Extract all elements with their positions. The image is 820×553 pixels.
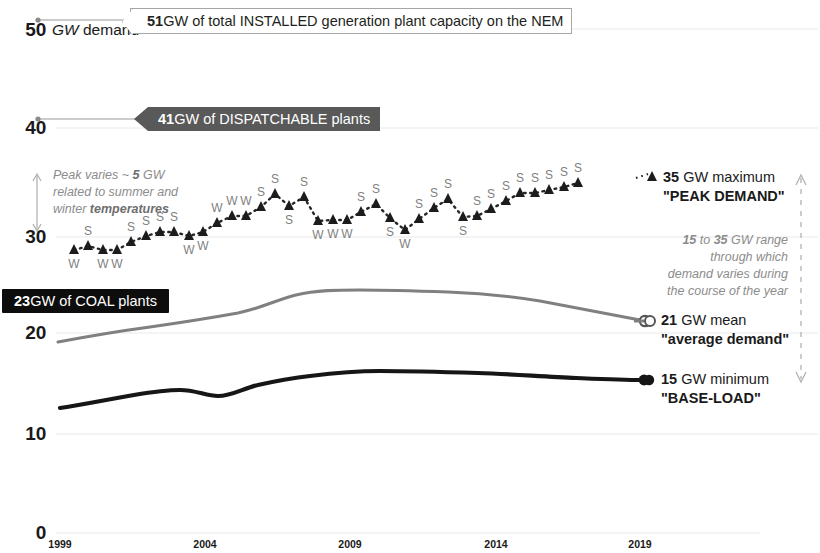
callout-coal-text: GW of COAL plants bbox=[30, 293, 157, 309]
legend-average-demand: 21 GW mean "average demand" bbox=[661, 311, 789, 349]
range-note-line2: through which bbox=[710, 250, 788, 264]
peak-note-line1-bold: 5 bbox=[133, 168, 140, 182]
season-marker-label: S bbox=[557, 165, 571, 179]
callout-coal-capacity: 23 GW of COAL plants bbox=[2, 289, 169, 313]
season-marker-label: S bbox=[528, 171, 542, 185]
legend-mean-quote: "average demand" bbox=[661, 331, 789, 347]
season-marker-label: W bbox=[326, 227, 340, 241]
range-note-line4: the course of the year bbox=[667, 284, 788, 298]
callout-installed-text: GW of total INSTALLED generation plant c… bbox=[163, 13, 563, 29]
callout-installed-capacity: 51 GW of total INSTALLED generation plan… bbox=[130, 8, 572, 34]
season-marker-label: W bbox=[182, 243, 196, 257]
y-tick-40: 40 bbox=[0, 117, 46, 139]
legend-base-load: 15 GW minimum "BASE-LOAD" bbox=[661, 370, 769, 408]
season-marker-label: S bbox=[542, 168, 556, 182]
legend-peak-quote: "PEAK DEMAND" bbox=[663, 188, 785, 204]
callout-dispatchable-value: 41 bbox=[158, 111, 174, 127]
callout-dispatchable-text: GW of DISPATCHABLE plants bbox=[174, 111, 370, 127]
legend-mean-value: 21 bbox=[661, 312, 677, 328]
callout-coal-value: 23 bbox=[14, 293, 30, 309]
series-min-line bbox=[60, 371, 642, 408]
season-marker-label: W bbox=[311, 228, 325, 242]
season-marker-label: S bbox=[297, 175, 311, 189]
season-marker-label: W bbox=[196, 239, 210, 253]
season-marker-label: S bbox=[268, 172, 282, 186]
peak-note-line3a: winter bbox=[53, 202, 90, 216]
range-note-line3: demand varies during bbox=[668, 267, 788, 281]
season-marker-label: W bbox=[67, 257, 81, 271]
season-marker-label: S bbox=[167, 210, 181, 224]
peak-variation-arrow bbox=[33, 174, 41, 231]
season-marker-label: S bbox=[369, 182, 383, 196]
season-marker-label: S bbox=[470, 194, 484, 208]
range-note-low: 15 bbox=[682, 233, 696, 247]
season-marker-label: S bbox=[441, 177, 455, 191]
season-marker-label: S bbox=[412, 197, 426, 211]
season-marker-label: S bbox=[513, 171, 527, 185]
annotation-peak-variation: Peak varies ~ 5 GW related to summer and… bbox=[53, 167, 223, 218]
reference-leader-41 bbox=[35, 116, 140, 121]
y-tick-20: 20 bbox=[0, 322, 46, 344]
legend-min-value: 15 bbox=[661, 371, 677, 387]
season-marker-label: S bbox=[153, 210, 167, 224]
season-marker-label: W bbox=[239, 194, 253, 208]
legend-mean-unit: GW mean bbox=[677, 312, 746, 328]
legend-min-quote: "BASE-LOAD" bbox=[661, 390, 761, 406]
season-marker-label: S bbox=[354, 190, 368, 204]
peak-note-line2: related to summer and bbox=[53, 185, 178, 199]
callout-installed-value: 51 bbox=[147, 13, 163, 29]
season-marker-label: S bbox=[81, 224, 95, 238]
callout-dispatchable-capacity: 41 GW of DISPATCHABLE plants bbox=[134, 107, 380, 131]
x-tick-1999: 1999 bbox=[30, 538, 90, 550]
legend-peak-value: 35 bbox=[663, 169, 679, 185]
season-marker-label: W bbox=[96, 257, 110, 271]
x-tick-2019: 2019 bbox=[610, 538, 670, 550]
legend-peak-unit: GW maximum bbox=[679, 169, 775, 185]
y-tick-30: 30 bbox=[0, 226, 46, 248]
x-tick-2014: 2014 bbox=[466, 538, 526, 550]
season-marker-label: S bbox=[456, 224, 470, 238]
range-note-high: 35 bbox=[714, 233, 728, 247]
legend-marker-peak bbox=[636, 171, 657, 181]
season-marker-label: W bbox=[210, 201, 224, 215]
season-marker-label: S bbox=[484, 187, 498, 201]
chart-canvas: 50 40 30 20 10 0 GW demand 1999 2004 200… bbox=[0, 0, 820, 553]
peak-note-line1a: Peak varies ~ bbox=[53, 168, 133, 182]
range-note-line1-rest: GW range bbox=[728, 233, 788, 247]
y-tick-10: 10 bbox=[0, 423, 46, 445]
season-marker-label: S bbox=[383, 225, 397, 239]
peak-note-line1b: GW bbox=[140, 168, 165, 182]
season-marker-label: W bbox=[340, 227, 354, 241]
range-note-mid: to bbox=[696, 233, 713, 247]
season-marker-label: S bbox=[282, 213, 296, 227]
x-tick-2009: 2009 bbox=[320, 538, 380, 550]
demand-range-arrow bbox=[796, 175, 806, 382]
legend-min-unit: GW minimum bbox=[677, 371, 769, 387]
annotation-demand-range: 15 to 35 GW range through which demand v… bbox=[660, 232, 788, 300]
y-tick-50: 50 bbox=[0, 19, 46, 41]
x-tick-2004: 2004 bbox=[175, 538, 235, 550]
season-marker-label: S bbox=[254, 185, 268, 199]
season-marker-label: S bbox=[139, 214, 153, 228]
season-marker-label: W bbox=[110, 257, 124, 271]
legend-peak-demand: 35 GW maximum "PEAK DEMAND" bbox=[663, 168, 785, 206]
y-axis-unit-italic: GW bbox=[52, 21, 79, 38]
season-marker-label: S bbox=[124, 220, 138, 234]
season-marker-label: W bbox=[225, 194, 239, 208]
season-marker-label: S bbox=[427, 186, 441, 200]
season-marker-label: S bbox=[499, 179, 513, 193]
season-marker-label: S bbox=[571, 161, 585, 175]
season-marker-label: W bbox=[398, 237, 412, 251]
